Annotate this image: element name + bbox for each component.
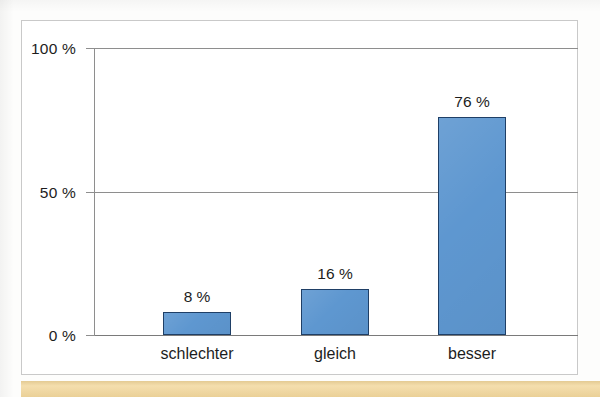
category-label-schlechter: schlechter (137, 346, 257, 362)
scanned-page: 100 % 50 % 0 % 8 % 16 % 76 % schlechter … (0, 0, 600, 397)
bar-gleich[interactable] (301, 289, 369, 335)
y-tick-100 (86, 48, 95, 49)
category-label-gleich: gleich (275, 346, 395, 362)
value-label-gleich: 16 % (301, 266, 369, 282)
y-tick-0 (86, 335, 95, 336)
chart-frame: 100 % 50 % 0 % 8 % 16 % 76 % schlechter … (21, 20, 578, 375)
bar-schlechter[interactable] (163, 312, 231, 335)
category-label-besser: besser (412, 346, 532, 362)
value-label-schlechter: 8 % (163, 289, 231, 305)
gridline-100 (94, 48, 578, 49)
axis-baseline-0 (94, 335, 578, 336)
bottom-band-shading (21, 381, 600, 397)
bar-besser[interactable] (438, 117, 506, 335)
y-axis-label-100: 100 % (31, 41, 76, 57)
y-axis-label-0: 0 % (49, 328, 76, 344)
plot-area: 100 % 50 % 0 % 8 % 16 % 76 % schlechter … (22, 21, 579, 376)
value-label-besser: 76 % (438, 94, 506, 110)
y-tick-50 (86, 192, 95, 193)
bottom-color-band (21, 381, 600, 397)
y-axis-label-50: 50 % (40, 185, 76, 201)
